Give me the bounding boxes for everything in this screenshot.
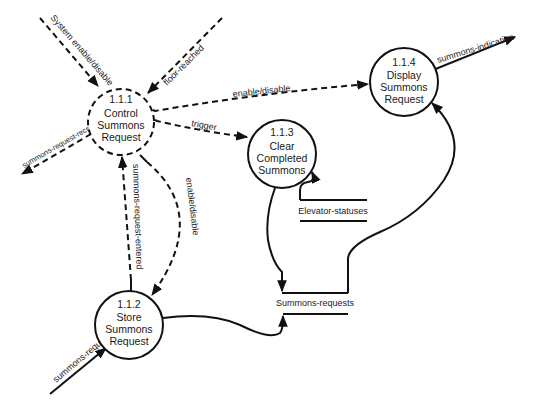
- flow-enable-disable-display: enable/disable: [153, 83, 368, 111]
- store-summons-requests[interactable]: Summons-requests: [276, 298, 355, 314]
- process-name-line3: Request: [384, 93, 423, 105]
- flow-line: [122, 157, 131, 280]
- flow-clear-to-summons-requests: [267, 188, 282, 291]
- process-name-line2: Completed: [257, 152, 308, 164]
- flow-system-enable-disable: System enable/disable: [40, 13, 115, 88]
- flow-label: enable/disable: [232, 83, 291, 99]
- flow-label: summons-request-entered: [131, 164, 145, 270]
- process-name-line3: Request: [109, 335, 148, 347]
- flow-summons-request-entered: summons-request-entered: [122, 157, 145, 291]
- flow-label: System enable/disable: [48, 13, 115, 88]
- flow-label: enable/disable: [184, 177, 201, 236]
- flow-store-to-summons-requests: [163, 316, 283, 335]
- process-control-summons-request[interactable]: 1.1.1 Control Summons Request: [88, 89, 154, 155]
- flow-label: trigger: [191, 118, 218, 132]
- flow-line: [147, 162, 180, 295]
- flow-label: floor-reached: [161, 43, 206, 88]
- store-label: Elevator-statuses: [298, 206, 368, 216]
- flow-floor-reached: floor-reached: [148, 18, 222, 93]
- process-clear-completed-summons[interactable]: 1.1.3 Clear Completed Summons: [248, 120, 316, 188]
- process-name-line1: Control: [104, 107, 138, 119]
- process-name-line1: Display: [387, 69, 422, 81]
- process-name-line2: Summons: [105, 323, 152, 335]
- data-flow-diagram: System enable/disable floor-reached summ…: [0, 0, 533, 405]
- flow-line-stub: [140, 155, 147, 162]
- flow-label: summons-indication: [436, 32, 515, 65]
- flow-enable-disable-store: enable/disable: [140, 155, 201, 295]
- process-name-line2: Summons: [380, 81, 427, 93]
- process-display-summons-request[interactable]: 1.1.4 Display Summons Request: [370, 48, 438, 116]
- process-number: 1.1.2: [117, 298, 141, 310]
- process-name-line3: Summons: [258, 164, 305, 176]
- process-name-line1: Store: [116, 311, 141, 323]
- process-name-line3: Request: [101, 131, 140, 143]
- process-store-summons-request[interactable]: 1.1.2 Store Summons Request: [95, 291, 163, 359]
- process-name-line1: Clear: [269, 140, 295, 152]
- store-label: Summons-requests: [276, 298, 355, 308]
- process-name-line2: Summons: [97, 119, 144, 131]
- process-number: 1.1.3: [270, 126, 294, 138]
- flow-summons-requests-to-display: [348, 103, 455, 293]
- store-elevator-statuses[interactable]: Elevator-statuses: [298, 200, 368, 221]
- process-number: 1.1.4: [392, 56, 416, 68]
- process-number: 1.1.1: [109, 93, 133, 105]
- flow-trigger: trigger: [155, 118, 247, 137]
- flow-summons-indication: summons-indication: [433, 32, 515, 70]
